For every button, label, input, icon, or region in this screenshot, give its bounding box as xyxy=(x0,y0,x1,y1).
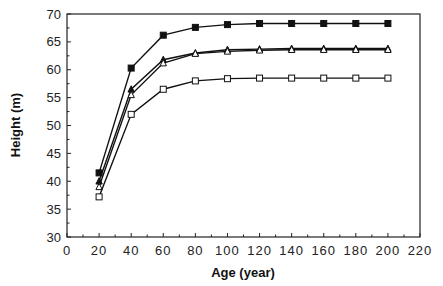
data-point-marker xyxy=(353,20,359,26)
y-axis: 303540455055606570 xyxy=(47,7,71,245)
series-1 xyxy=(96,20,391,175)
data-point-marker xyxy=(257,20,263,26)
y-tick-label: 40 xyxy=(47,174,61,189)
x-tick-label: 100 xyxy=(215,243,240,258)
data-point-marker xyxy=(353,75,359,81)
x-tick-label: 60 xyxy=(155,243,171,258)
data-point-marker xyxy=(128,111,134,117)
data-point-marker xyxy=(160,86,166,92)
data-point-marker xyxy=(192,24,198,30)
data-point-marker xyxy=(321,20,327,26)
data-point-marker xyxy=(224,76,230,82)
y-tick-label: 35 xyxy=(47,202,61,217)
x-tick-label: 0 xyxy=(63,243,71,258)
data-point-marker xyxy=(96,194,102,200)
y-axis-title: Height (m) xyxy=(8,93,23,157)
x-tick-label: 160 xyxy=(311,243,336,258)
x-tick-label: 180 xyxy=(343,243,368,258)
y-tick-label: 55 xyxy=(47,90,61,105)
line-chart: 303540455055606570 020406080100120140160… xyxy=(0,0,443,286)
y-tick-label: 50 xyxy=(47,118,61,133)
y-tick-label: 65 xyxy=(47,34,61,49)
x-tick-label: 200 xyxy=(376,243,401,258)
y-tick-label: 70 xyxy=(47,7,61,22)
x-tick-label: 40 xyxy=(123,243,139,258)
x-tick-label: 80 xyxy=(187,243,203,258)
data-point-marker xyxy=(224,22,230,28)
x-tick-label: 220 xyxy=(408,243,433,258)
x-axis-title: Age (year) xyxy=(211,265,275,280)
series-3 xyxy=(96,46,391,189)
y-tick-label: 30 xyxy=(47,230,61,245)
data-point-marker xyxy=(289,75,295,81)
series-4 xyxy=(96,75,391,200)
series-layer xyxy=(96,20,391,199)
data-point-marker xyxy=(160,32,166,38)
x-tick-label: 140 xyxy=(279,243,304,258)
series-2 xyxy=(96,45,391,184)
y-tick-label: 60 xyxy=(47,62,61,77)
data-point-marker xyxy=(321,75,327,81)
series-line xyxy=(99,78,388,197)
data-point-marker xyxy=(385,20,391,26)
data-point-marker xyxy=(289,20,295,26)
data-point-marker xyxy=(257,75,263,81)
data-point-marker xyxy=(385,75,391,81)
series-line xyxy=(99,49,388,182)
x-tick-label: 20 xyxy=(91,243,107,258)
series-line xyxy=(99,23,388,172)
data-point-marker xyxy=(192,78,198,84)
series-line xyxy=(99,50,388,187)
y-tick-label: 45 xyxy=(47,146,61,161)
x-tick-label: 120 xyxy=(247,243,272,258)
data-point-marker xyxy=(128,65,134,71)
